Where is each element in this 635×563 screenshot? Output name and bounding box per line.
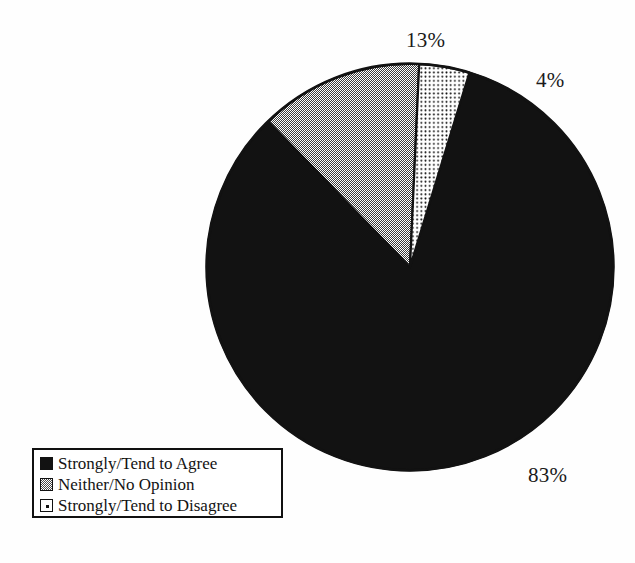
legend-item-disagree: Strongly/Tend to Disagree [40,495,276,516]
pie-chart [205,62,615,472]
slice-label-neither: 13% [406,28,445,53]
pie-chart-svg [205,62,615,472]
legend-label-agree: Strongly/Tend to Agree [58,455,217,472]
solid-black-swatch-icon [40,457,53,470]
chart-page: 13% 4% 83% Strongly/Tend to Agree Neithe… [0,0,635,563]
pie-slices [207,64,613,470]
slice-label-agree: 83% [528,463,567,488]
gray-checker-swatch-icon [40,478,53,491]
legend-label-disagree: Strongly/Tend to Disagree [58,497,237,514]
white-dotted-swatch-icon [40,499,53,512]
slice-label-disagree: 4% [536,68,564,93]
legend-item-agree: Strongly/Tend to Agree [40,453,276,474]
legend: Strongly/Tend to Agree Neither/No Opinio… [32,448,283,518]
legend-item-neither: Neither/No Opinion [40,474,276,495]
legend-label-neither: Neither/No Opinion [58,476,194,493]
